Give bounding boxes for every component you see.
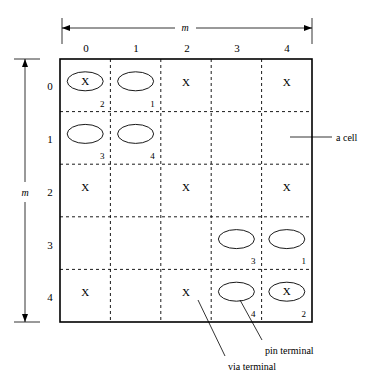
grid-cell-r4-c2[interactable]: X	[182, 286, 190, 298]
grid-cell-r3-c4[interactable]: 1	[269, 230, 306, 267]
blocked-marker: X	[81, 75, 89, 87]
blocked-marker: X	[283, 181, 291, 193]
annotation-via-terminal: via terminal	[198, 300, 276, 372]
grid-cell-r4-c4[interactable]: X2	[269, 282, 306, 319]
grid-cell-r1-c0[interactable]: 3	[67, 124, 105, 161]
v-dim-arrowhead-bottom	[22, 314, 28, 322]
terminal-number: 3	[251, 256, 256, 266]
via-terminal-ellipse	[67, 124, 103, 143]
blocked-marker: X	[283, 285, 291, 297]
terminal-number: 2	[100, 99, 105, 109]
cells-layer: X21XX34XXX31XX4X2	[67, 72, 306, 319]
grid-cell-r4-c3[interactable]: 4	[218, 282, 256, 319]
figure-root: m m 0 1 2 3 4 0 1 2 3 4	[0, 0, 371, 387]
terminal-number: 1	[302, 256, 307, 266]
row-header-4: 4	[47, 291, 53, 303]
column-headers: 0 1 2 3 4	[83, 42, 290, 54]
grid-cell-r2-c4[interactable]: X	[283, 181, 291, 193]
grid-cell-r2-c0[interactable]: X	[81, 181, 89, 193]
h-dim-arrowhead-left	[62, 25, 70, 31]
row-header-2: 2	[47, 186, 53, 198]
pin-terminal-leader-line	[240, 300, 262, 340]
h-dim-arrowhead-right	[304, 25, 312, 31]
horizontal-dimension-label: m	[181, 22, 188, 33]
v-dim-arrowhead-top	[22, 59, 28, 67]
grid-cell-r0-c4[interactable]: X	[283, 76, 291, 88]
via-terminal-ellipse	[118, 124, 154, 143]
terminal-number: 4	[251, 309, 256, 319]
pin-terminal-label: pin terminal	[265, 345, 314, 356]
grid-cell-r3-c3[interactable]: 3	[218, 230, 256, 267]
grid-cell-r0-c2[interactable]: X	[182, 76, 190, 88]
blocked-marker: X	[182, 286, 190, 298]
column-header-4: 4	[284, 42, 290, 54]
vertical-dimension: m	[14, 59, 40, 322]
column-header-1: 1	[133, 42, 139, 54]
a-cell-label: a cell	[336, 132, 358, 143]
blocked-marker: X	[182, 76, 190, 88]
row-headers: 0 1 2 3 4	[47, 80, 53, 303]
row-header-3: 3	[47, 239, 53, 251]
via-terminal-label: via terminal	[228, 361, 276, 372]
column-header-3: 3	[234, 42, 240, 54]
terminal-number: 3	[100, 151, 105, 161]
terminal-number: 2	[302, 309, 307, 319]
grid-cell-r1-c1[interactable]: 4	[118, 124, 156, 161]
grid-cell-r0-c1[interactable]: 1	[118, 72, 155, 109]
blocked-marker: X	[283, 76, 291, 88]
annotation-a-cell: a cell	[290, 132, 358, 143]
via-terminal-ellipse	[269, 230, 305, 249]
column-header-2: 2	[184, 42, 190, 54]
blocked-marker: X	[182, 181, 190, 193]
via-terminal-ellipse	[218, 230, 254, 249]
grid-cell-r4-c0[interactable]: X	[81, 286, 89, 298]
row-header-1: 1	[47, 133, 53, 145]
grid-cell-r2-c2[interactable]: X	[182, 181, 190, 193]
grid-diagram: m m 0 1 2 3 4 0 1 2 3 4	[0, 0, 371, 387]
via-terminal-leader-line	[198, 300, 225, 356]
column-header-0: 0	[83, 42, 89, 54]
terminal-number: 1	[150, 99, 155, 109]
vertical-dimension-label: m	[21, 187, 28, 198]
grid-cell-r0-c0[interactable]: X2	[67, 72, 104, 109]
blocked-marker: X	[81, 286, 89, 298]
via-terminal-ellipse	[218, 282, 254, 301]
via-terminal-ellipse	[118, 72, 154, 91]
horizontal-dimension: m	[62, 18, 312, 44]
row-header-0: 0	[47, 80, 53, 92]
terminal-number: 4	[150, 151, 155, 161]
blocked-marker: X	[81, 181, 89, 193]
